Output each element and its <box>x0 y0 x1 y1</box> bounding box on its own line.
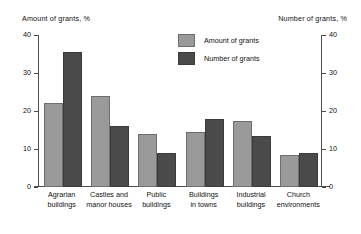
category-label-line: buildings <box>38 200 85 210</box>
bar-group <box>91 35 129 187</box>
right-tick-mark <box>322 73 326 74</box>
right-tick-mark <box>322 35 326 36</box>
left-tick-label: 0 <box>27 183 31 190</box>
left-tick-label: 30 <box>23 69 31 76</box>
category-label: Churchenvironments <box>275 190 322 209</box>
category-label: Publicbuildings <box>133 190 180 209</box>
category-label: Buildingsin towns <box>180 190 227 209</box>
bar-amount <box>138 134 157 187</box>
right-tick-label: 30 <box>329 69 337 76</box>
bar-group <box>138 35 176 187</box>
right-tick-label: 10 <box>329 145 337 152</box>
legend-label-number: Number of grants <box>204 54 260 63</box>
category-axis-labels: AgrarianbuildingsCastles andmanor houses… <box>38 190 322 218</box>
right-tick-label: 40 <box>329 31 337 38</box>
right-tick-mark <box>322 149 326 150</box>
left-tick-label: 10 <box>23 145 31 152</box>
left-tick-mark <box>34 187 38 188</box>
legend-item-amount-of-grants: Amount of grants <box>178 33 260 48</box>
bar-number <box>110 126 129 187</box>
right-tick-label: 0 <box>329 183 333 190</box>
right-tick-mark <box>322 187 326 188</box>
legend-swatch-icon-amount <box>178 34 195 47</box>
right-axis-title: Number of grants, % <box>278 14 347 23</box>
bar-group <box>280 35 318 187</box>
category-label: Castles andmanor houses <box>85 190 132 209</box>
bar-number <box>252 136 271 187</box>
left-tick-label: 20 <box>23 107 31 114</box>
category-label-line: in towns <box>180 200 227 210</box>
category-label-line: Buildings <box>180 190 227 200</box>
bar-number <box>205 119 224 187</box>
chart-figure: Amount of grants, % Number of grants, % … <box>0 0 361 234</box>
bar-group <box>44 35 82 187</box>
category-label-line: Industrial <box>227 190 274 200</box>
chart-legend: Amount of grants Number of grants <box>178 33 260 69</box>
left-tick-label: 40 <box>23 31 31 38</box>
bar-number <box>157 153 176 187</box>
legend-label-amount: Amount of grants <box>204 36 259 45</box>
legend-item-number-of-grants: Number of grants <box>178 51 260 66</box>
bar-amount <box>233 121 252 188</box>
category-label: Industrialbuildings <box>227 190 274 209</box>
category-label-line: Castles and <box>85 190 132 200</box>
right-tick-mark <box>322 111 326 112</box>
left-axis-title: Amount of grants, % <box>22 14 90 23</box>
bar-number <box>63 52 82 187</box>
category-label-line: buildings <box>227 200 274 210</box>
bar-number <box>299 153 318 187</box>
category-label-line: buildings <box>133 200 180 210</box>
category-label-line: Agrarian <box>38 190 85 200</box>
category-label-line: Church <box>275 190 322 200</box>
bar-amount <box>91 96 110 187</box>
bar-amount <box>186 132 205 187</box>
category-label-line: Public <box>133 190 180 200</box>
category-label-line: manor houses <box>85 200 132 210</box>
category-label: Agrarianbuildings <box>38 190 85 209</box>
category-label-line: environments <box>275 200 322 210</box>
legend-swatch-icon-number <box>178 52 195 65</box>
bar-amount <box>44 103 63 187</box>
bar-amount <box>280 155 299 187</box>
right-tick-label: 20 <box>329 107 337 114</box>
